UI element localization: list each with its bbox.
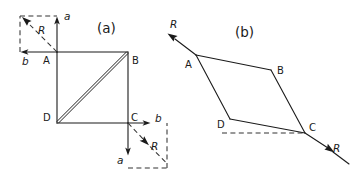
diagonal-DB-line-2 <box>57 52 126 121</box>
vertex-label-B-panel-a: B <box>132 55 139 66</box>
panel-a-label: (a) <box>97 20 116 36</box>
resultant-R-at-A-arrowhead <box>22 17 32 26</box>
vector-b-at-A <box>21 49 58 55</box>
vector-label-a-at-C: a <box>117 154 123 166</box>
vector-label-R-at-C: R <box>151 140 158 152</box>
vertex-label-B-panel-b: B <box>277 65 284 76</box>
panel-b-label: (b) <box>235 24 254 40</box>
vertex-label-D-panel-a: D <box>43 112 51 123</box>
vertex-label-D-panel-b: D <box>217 119 225 130</box>
resultant-R-lower-panel-b <box>305 133 349 164</box>
vector-a-at-C <box>125 123 131 156</box>
parallelogram-side-AB <box>196 55 271 70</box>
vector-label-b-at-C: b <box>155 112 162 124</box>
parallelogram-ABCD <box>196 55 305 133</box>
panel-b-group: A B C D R R (b) <box>168 18 350 164</box>
parallelogram-side-DA <box>196 55 230 119</box>
vertex-label-C-panel-a: C <box>131 112 138 123</box>
parallelogram-side-CD <box>230 119 305 133</box>
vector-a-at-A <box>54 17 60 53</box>
diagonal-DB-double-line <box>57 52 128 123</box>
figure-container: A B C D a b R b a R (a) <box>0 0 354 185</box>
resultant-label-R-upper-panel-b: R <box>170 18 177 30</box>
vector-label-R-at-A: R <box>38 24 45 36</box>
diagonal-DB-line-1 <box>59 54 128 124</box>
resultant-R-upper-panel-b <box>168 34 197 56</box>
resultant-R-at-C-shaft <box>128 123 144 140</box>
parallelogram-side-BC <box>271 70 305 133</box>
vector-label-b-at-A: b <box>22 55 29 67</box>
vector-addition-figure: A B C D a b R b a R (a) <box>0 0 354 185</box>
resultant-R-upper-shaft <box>175 39 196 55</box>
panel-a-group: A B C D a b R b a R (a) <box>20 10 167 168</box>
square-ABCD <box>57 52 128 123</box>
vertex-label-A-panel-b: A <box>185 59 192 70</box>
vertex-label-A-panel-a: A <box>43 55 50 66</box>
vector-label-a-at-A: a <box>64 10 70 22</box>
resultant-R-at-C <box>128 123 167 163</box>
vertex-label-C-panel-b: C <box>309 122 316 133</box>
resultant-R-lower-shaft <box>305 133 328 148</box>
resultant-label-R-lower-panel-b: R <box>333 142 340 154</box>
